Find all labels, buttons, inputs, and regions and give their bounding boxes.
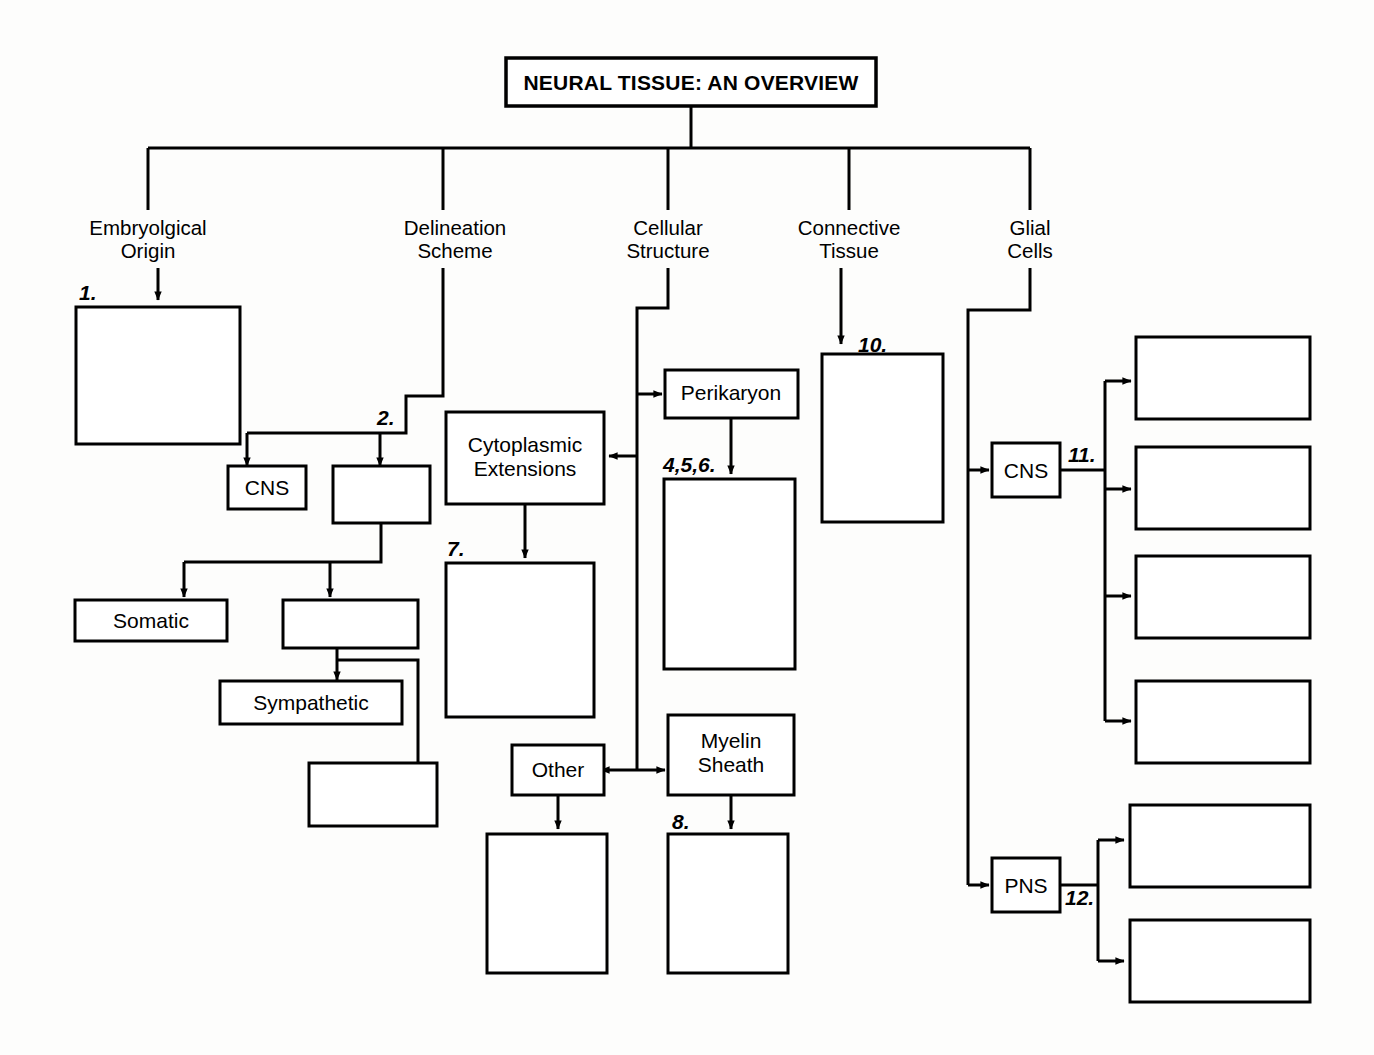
box-label-other: Other	[532, 758, 585, 781]
blank-box-4[interactable]	[309, 763, 437, 826]
branch-label-glial-cells-line2: Cells	[1007, 239, 1053, 262]
box-label-cytoplasmic-extensions-line1: Cytoplasmic	[468, 433, 582, 456]
branch-label-cellular-structure-line2: Structure	[626, 239, 709, 262]
neural-tissue-flowchart: NEURAL TISSUE: AN OVERVIEW Embryolgical …	[0, 0, 1374, 1055]
box-label-somatic: Somatic	[113, 609, 189, 632]
blank-box-3[interactable]	[283, 600, 418, 648]
blank-box-11c[interactable]	[1136, 556, 1310, 638]
branch-label-delineation-scheme-line1: Delineation	[404, 216, 507, 239]
blank-box-11b[interactable]	[1136, 447, 1310, 529]
branch-label-glial-cells-line1: Glial	[1009, 216, 1050, 239]
box-label-cytoplasmic-extensions-line2: Extensions	[474, 457, 577, 480]
branch-label-embryolgical-origin-line2: Origin	[121, 239, 176, 262]
box-label-myelin-sheath-line2: Sheath	[698, 753, 765, 776]
number-label-2: 2.	[376, 406, 395, 429]
number-label-7: 7.	[447, 537, 465, 560]
flowchart-canvas: NEURAL TISSUE: AN OVERVIEW Embryolgical …	[0, 0, 1374, 1055]
box-label-perikaryon: Perikaryon	[681, 381, 781, 404]
branch-label-connective-tissue-line2: Tissue	[819, 239, 879, 262]
blank-box-12b[interactable]	[1130, 920, 1310, 1002]
connector-delineation-stepped	[247, 268, 443, 433]
box-label-cns-delineation: CNS	[245, 476, 289, 499]
box-label-sympathetic: Sympathetic	[253, 691, 369, 714]
blank-box-12a[interactable]	[1130, 805, 1310, 887]
blank-box-7[interactable]	[446, 563, 594, 717]
blank-box-11d[interactable]	[1136, 681, 1310, 763]
number-label-11: 11.	[1068, 443, 1096, 466]
number-label-8: 8.	[672, 810, 690, 833]
blank-box-9[interactable]	[487, 834, 607, 973]
box-label-cns-glial: CNS	[1004, 459, 1048, 482]
branch-label-embryolgical-origin-line1: Embryolgical	[89, 216, 206, 239]
blank-box-2[interactable]	[333, 466, 430, 523]
branch-label-delineation-scheme-line2: Scheme	[417, 239, 492, 262]
connector-blank2-split-left	[184, 523, 381, 562]
blank-box-8[interactable]	[668, 834, 788, 973]
branch-label-cellular-structure-line1: Cellular	[633, 216, 703, 239]
blank-box-456[interactable]	[664, 479, 795, 669]
blank-box-10[interactable]	[822, 354, 943, 522]
box-label-pns-glial: PNS	[1004, 874, 1047, 897]
number-label-12: 12.	[1065, 886, 1094, 909]
number-label-456: 4,5,6.	[662, 453, 716, 476]
blank-box-1[interactable]	[76, 307, 240, 444]
number-label-1: 1.	[79, 281, 97, 304]
page-title: NEURAL TISSUE: AN OVERVIEW	[523, 71, 858, 94]
blank-box-11a[interactable]	[1136, 337, 1310, 419]
connector-glial-trunk	[968, 268, 1030, 885]
box-label-myelin-sheath-line1: Myelin	[701, 729, 762, 752]
branch-label-connective-tissue-line1: Connective	[798, 216, 901, 239]
